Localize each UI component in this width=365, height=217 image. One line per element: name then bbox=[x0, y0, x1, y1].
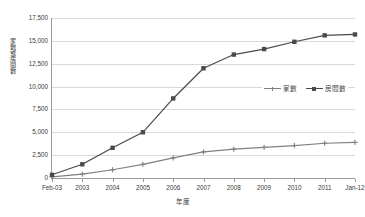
y-axis-tick-label: 12,500 bbox=[16, 61, 48, 67]
x-axis-tick-label: 2004 bbox=[106, 184, 120, 191]
data-point-marker bbox=[110, 146, 114, 150]
legend-label: 家數 bbox=[283, 85, 297, 92]
line-chart: 家數或房間數 02,5005,0007,50010,00012,50015,00… bbox=[0, 0, 365, 217]
chart-legend: 家數房間數 bbox=[262, 84, 348, 93]
y-axis-tick-label: 7,500 bbox=[16, 106, 48, 112]
y-axis-tick-label: 0 bbox=[16, 175, 48, 181]
data-point-marker bbox=[141, 130, 145, 134]
legend-entry[interactable]: 家數 bbox=[264, 85, 297, 92]
x-axis-tick-mark bbox=[234, 179, 235, 182]
data-point-marker bbox=[201, 66, 205, 70]
series-overlay bbox=[52, 18, 355, 178]
y-axis-tick-label: 2,500 bbox=[16, 152, 48, 158]
x-axis-tick-mark bbox=[143, 179, 144, 182]
x-axis-tick-label: 2011 bbox=[318, 184, 332, 191]
data-point-marker bbox=[353, 32, 357, 36]
x-axis-tick-label: Feb-03 bbox=[42, 184, 62, 191]
legend-plus-marker-icon bbox=[264, 85, 281, 92]
data-point-marker bbox=[352, 140, 357, 145]
x-axis-tick-mark bbox=[355, 179, 356, 182]
x-axis-tick-label: 2010 bbox=[287, 184, 301, 191]
data-point-marker bbox=[50, 173, 54, 177]
x-axis-tick-label: 2009 bbox=[257, 184, 271, 191]
x-axis-tick-label: 2006 bbox=[166, 184, 180, 191]
data-point-marker bbox=[110, 167, 115, 172]
data-point-marker bbox=[171, 96, 175, 100]
legend-label: 房間數 bbox=[325, 85, 346, 92]
x-axis-tick-mark bbox=[325, 179, 326, 182]
y-axis-tick-label: 15,000 bbox=[16, 38, 48, 44]
data-point-marker bbox=[292, 40, 296, 44]
x-axis-tick-mark bbox=[113, 179, 114, 182]
x-axis-tick-mark bbox=[82, 179, 83, 182]
series-家數 bbox=[49, 140, 357, 180]
y-axis-tick-labels: 02,5005,0007,50010,00012,50015,00017,500 bbox=[16, 18, 48, 178]
data-point-marker bbox=[80, 162, 84, 166]
y-axis-tick-label: 10,000 bbox=[16, 83, 48, 89]
x-axis-tick-label: 2008 bbox=[227, 184, 241, 191]
data-point-marker bbox=[80, 172, 85, 177]
data-point-marker bbox=[232, 52, 236, 56]
x-axis-tick-label: Jan-12 bbox=[345, 184, 364, 191]
legend-square-marker-icon bbox=[306, 85, 323, 92]
y-axis-title: 家數或房間數 bbox=[2, 38, 16, 74]
x-axis-tick-mark bbox=[204, 179, 205, 182]
data-point-marker bbox=[171, 155, 176, 160]
data-point-marker bbox=[201, 149, 206, 154]
x-axis-tick-mark bbox=[173, 179, 174, 182]
data-point-marker bbox=[322, 141, 327, 146]
x-axis-tick-mark bbox=[264, 179, 265, 182]
x-axis-tick-labels: Feb-032003200420052006200720082009201020… bbox=[52, 184, 355, 194]
x-axis-tick-label: 2003 bbox=[75, 184, 89, 191]
x-axis-tick-label: 2005 bbox=[136, 184, 150, 191]
data-point-marker bbox=[323, 33, 327, 37]
y-axis-tick-label: 5,000 bbox=[16, 129, 48, 135]
data-point-marker bbox=[140, 162, 145, 167]
data-point-marker bbox=[262, 47, 266, 51]
series-房間數 bbox=[50, 32, 357, 177]
x-axis-title: 年度 bbox=[0, 198, 365, 206]
data-point-marker bbox=[292, 143, 297, 148]
x-axis-tick-label: 2007 bbox=[196, 184, 210, 191]
data-point-marker bbox=[262, 145, 267, 150]
x-axis-tick-mark bbox=[294, 179, 295, 182]
series-line bbox=[52, 142, 355, 176]
data-point-marker bbox=[231, 147, 236, 152]
x-axis-tick-mark bbox=[52, 179, 53, 182]
legend-entry[interactable]: 房間數 bbox=[306, 85, 346, 92]
y-axis-tick-label: 17,500 bbox=[16, 15, 48, 21]
